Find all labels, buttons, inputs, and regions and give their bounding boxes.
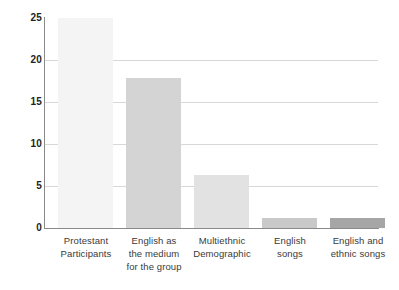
x-label-line: ethnic songs bbox=[311, 247, 399, 260]
y-tick-10: 10 bbox=[6, 139, 42, 149]
x-label-line: English and bbox=[311, 234, 399, 247]
plot-area bbox=[45, 18, 378, 228]
y-tick-5: 5 bbox=[6, 181, 42, 191]
bar-english-songs bbox=[262, 218, 317, 228]
bar-protestant-participants bbox=[58, 18, 113, 228]
bar-english-and-ethnic-songs bbox=[330, 218, 385, 228]
x-axis-line bbox=[44, 228, 379, 229]
bar-chart: 25 20 15 10 5 0 Protestant Participants … bbox=[0, 0, 399, 290]
y-tick-20: 20 bbox=[6, 55, 42, 65]
x-label-line: for the group bbox=[107, 260, 201, 273]
x-axis-category-labels: Protestant Participants English as the m… bbox=[45, 234, 378, 290]
x-label-english-and-ethnic-songs: English and ethnic songs bbox=[311, 234, 399, 260]
bar-english-as-the-medium-for-the-group bbox=[126, 78, 181, 228]
y-tick-0: 0 bbox=[6, 223, 42, 233]
bar-multiethnic-demographic bbox=[194, 175, 249, 228]
y-tick-15: 15 bbox=[6, 97, 42, 107]
y-axis-tick-labels: 25 20 15 10 5 0 bbox=[0, 0, 42, 290]
y-tick-25: 25 bbox=[6, 13, 42, 23]
